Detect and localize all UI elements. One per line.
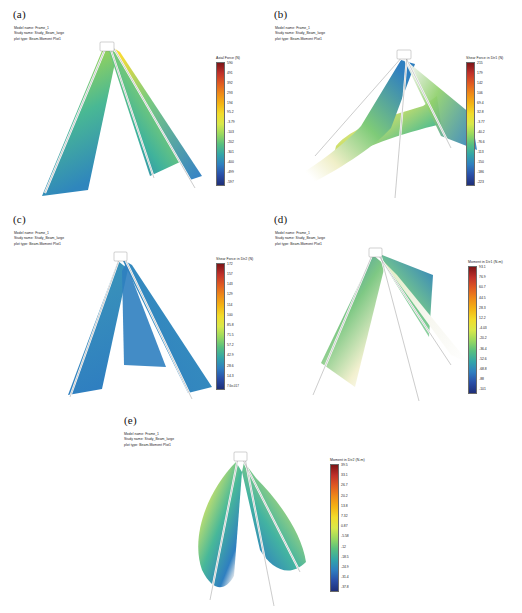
tick: 14.3 (227, 375, 239, 378)
panel-b-plot (291, 46, 481, 201)
tick: -202 (227, 141, 235, 144)
panel-c-plot (62, 247, 227, 407)
panel-d-legend-title: Moment in Dir1 (N-m) (468, 260, 503, 264)
tick: 392 (227, 82, 235, 85)
panel-a: (a) Model name: Frame_1 Study name: Stud… (0, 0, 261, 205)
tick: 39.5 (341, 464, 349, 467)
panel-a-legend: Axial Force (N) 590 491 392 293 194 95.2… (216, 56, 240, 186)
panel-d-plot (301, 245, 486, 405)
panel-c: (c) Model name: Frame_1 Study name: Stud… (0, 205, 261, 410)
tick: 293 (227, 92, 235, 95)
tick: 60.7 (479, 286, 487, 289)
tick: -31.4 (341, 576, 349, 579)
tick: 32.8 (477, 111, 485, 114)
panel-a-label: (a) (13, 8, 26, 20)
tick: 95.2 (227, 111, 235, 114)
panel-b-legend-title: Shear Force in Dir1 (N) (466, 56, 503, 60)
tick: -37.8 (341, 586, 349, 589)
tick: -36.4 (479, 348, 487, 351)
panel-c-colorbar (216, 263, 225, 390)
tick: 142 (477, 82, 485, 85)
panel-a-colorbar (216, 62, 225, 186)
tick: -3.79 (227, 121, 235, 124)
tick: -24.9 (341, 566, 349, 569)
tick: -3.77 (477, 121, 485, 124)
tick: 13.8 (341, 505, 349, 508)
tick: 100 (227, 314, 239, 317)
tick: 76.9 (479, 276, 487, 279)
tick: 7.6e-017 (227, 385, 239, 388)
panel-e-legend: Moment in Dir2 (N-m) 39.5 33.1 26.7 20.2… (330, 458, 365, 592)
panel-e-meta: Model name: Frame_1 Study name: Study_Be… (124, 432, 174, 448)
panel-e: (e) Model name: Frame_1 Study name: Stud… (110, 408, 412, 613)
panel-c-legend-title: Shear Force in Dir2 (N) (216, 257, 253, 261)
tick: 157 (227, 273, 239, 276)
tick: -68.8 (479, 368, 487, 371)
tick: 85.8 (227, 324, 239, 327)
panel-b-ticks: 215 179 142 106 69.4 32.8 -3.77 -40.2 -7… (477, 62, 485, 184)
tick: 491 (227, 72, 235, 75)
panel-d-ticks: 93.1 76.9 60.7 44.5 28.3 12.2 -4.03 -20.… (479, 266, 487, 392)
tick: -186 (477, 171, 485, 174)
panel-b: (b) Model name: Frame_1 Study name: Stud… (261, 0, 522, 205)
tick: 172 (227, 263, 239, 266)
tick: 26.7 (341, 484, 349, 487)
tick: -103 (227, 131, 235, 134)
panel-e-legend-title: Moment in Dir2 (N-m) (330, 458, 365, 462)
tick: -101 (479, 388, 487, 391)
panel-e-ticks: 39.5 33.1 26.7 20.2 13.8 7.32 0.87 -5.58… (341, 464, 349, 590)
panel-a-ticks: 590 491 392 293 194 95.2 -3.79 -103 -202… (227, 62, 235, 184)
tick: 215 (477, 62, 485, 65)
panel-b-meta: Model name: Frame_1 Study name: Study_Be… (275, 26, 325, 42)
panel-c-ticks: 172 157 143 129 114 100 85.8 71.5 57.2 4… (227, 263, 239, 388)
tick: 28.6 (227, 365, 239, 368)
tick: 93.1 (479, 266, 487, 269)
panel-b-colorbar (466, 62, 475, 186)
panel-b-legend: Shear Force in Dir1 (N) 215 179 142 106 … (466, 56, 503, 186)
tick: -301 (227, 151, 235, 154)
tick: -499 (227, 171, 235, 174)
panel-c-legend: Shear Force in Dir2 (N) 172 157 143 129 … (216, 257, 253, 390)
panel-e-colorbar (330, 464, 339, 592)
tick: 20.2 (341, 495, 349, 498)
tick: 106 (477, 92, 485, 95)
tick: 143 (227, 283, 239, 286)
tick: 129 (227, 293, 239, 296)
tick: -4.03 (479, 327, 487, 330)
tick: -12 (341, 546, 349, 549)
panel-c-label: (c) (13, 213, 26, 225)
tick: -76.6 (477, 141, 485, 144)
tick: -52.6 (479, 358, 487, 361)
tick: -223 (477, 181, 485, 184)
tick: -5.58 (341, 535, 349, 538)
tick: 57.2 (227, 344, 239, 347)
panel-d-label: (d) (274, 213, 287, 225)
tick: -113 (477, 151, 485, 154)
tick: 0.87 (341, 525, 349, 528)
tick: -400 (227, 161, 235, 164)
tick: -18.5 (341, 556, 349, 559)
tick: 71.5 (227, 334, 239, 337)
tick: -150 (477, 161, 485, 164)
tick: -40.2 (477, 131, 485, 134)
tick: 179 (477, 72, 485, 75)
panel-b-label: (b) (274, 8, 287, 20)
panel-d-colorbar (468, 266, 477, 394)
tick: 69.4 (477, 102, 485, 105)
tick: 28.3 (479, 307, 487, 310)
panel-a-legend-title: Axial Force (N) (216, 56, 240, 60)
tick: 42.9 (227, 354, 239, 357)
tick: -597 (227, 181, 235, 184)
panel-e-label: (e) (124, 414, 137, 426)
panel-d: (d) Model name: Frame_1 Study name: Stud… (261, 205, 522, 410)
tick: 7.32 (341, 515, 349, 518)
panel-c-meta: Model name: Frame_1 Study name: Study_Be… (14, 231, 64, 247)
tick: 114 (227, 304, 239, 307)
tick: 590 (227, 62, 235, 65)
panel-d-legend: Moment in Dir1 (N-m) 93.1 76.9 60.7 44.5… (468, 260, 503, 394)
tick: 33.1 (341, 474, 349, 477)
tick: -20.2 (479, 337, 487, 340)
panel-e-plot (168, 450, 353, 608)
tick: 194 (227, 102, 235, 105)
tick: 12.2 (479, 317, 487, 320)
